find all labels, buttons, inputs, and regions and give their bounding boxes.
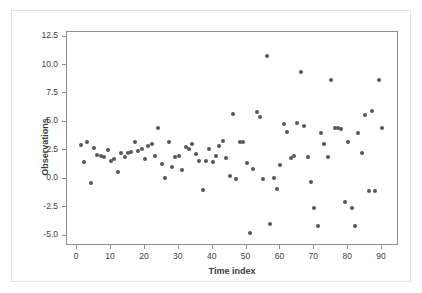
data-point bbox=[353, 224, 357, 228]
data-point bbox=[156, 126, 160, 130]
data-point bbox=[319, 131, 323, 135]
y-axis-tick-label: -2.5 bbox=[12, 202, 58, 211]
data-point bbox=[245, 161, 249, 165]
data-point bbox=[363, 113, 367, 117]
data-point bbox=[312, 206, 316, 210]
data-point bbox=[292, 154, 296, 158]
x-axis-tick-mark bbox=[76, 245, 77, 249]
data-point bbox=[217, 144, 221, 148]
data-point bbox=[106, 148, 110, 152]
data-point bbox=[140, 147, 144, 151]
y-axis-tick-label: -5.0 bbox=[12, 230, 58, 239]
data-point bbox=[228, 174, 232, 178]
data-point bbox=[255, 110, 259, 114]
x-axis-tick-label: 20 bbox=[129, 251, 159, 261]
data-point bbox=[231, 112, 235, 116]
data-point bbox=[329, 78, 333, 82]
data-point bbox=[92, 146, 96, 150]
data-point bbox=[322, 142, 326, 146]
x-axis-tick-mark bbox=[313, 245, 314, 249]
data-point bbox=[170, 165, 174, 169]
data-point bbox=[272, 176, 276, 180]
data-point bbox=[163, 176, 167, 180]
data-point bbox=[211, 160, 215, 164]
data-point bbox=[278, 163, 282, 167]
data-point bbox=[373, 189, 377, 193]
data-point bbox=[79, 143, 83, 147]
data-points-layer bbox=[67, 32, 397, 244]
y-axis-tick-label: 0.0 bbox=[12, 173, 58, 182]
data-point bbox=[129, 150, 133, 154]
plot-area bbox=[66, 31, 398, 245]
data-point bbox=[350, 206, 354, 210]
data-point bbox=[150, 142, 154, 146]
data-point bbox=[143, 157, 147, 161]
x-axis-title: Time index bbox=[66, 266, 398, 276]
x-axis-tick-label: 90 bbox=[366, 251, 396, 261]
y-axis-tick-label: 5.0 bbox=[12, 116, 58, 125]
data-point bbox=[112, 157, 116, 161]
data-point bbox=[221, 139, 225, 143]
x-axis-tick-label: 30 bbox=[163, 251, 193, 261]
x-axis-tick-label: 70 bbox=[298, 251, 328, 261]
data-point bbox=[180, 168, 184, 172]
data-point bbox=[258, 115, 262, 119]
data-point bbox=[224, 156, 228, 160]
y-axis-tick-label: 7.5 bbox=[12, 88, 58, 97]
data-point bbox=[85, 140, 89, 144]
x-axis-tick-label: 10 bbox=[95, 251, 125, 261]
data-point bbox=[102, 155, 106, 159]
data-point bbox=[367, 189, 371, 193]
data-point bbox=[190, 142, 194, 146]
data-point bbox=[248, 231, 252, 235]
data-point bbox=[167, 140, 171, 144]
data-point bbox=[82, 160, 86, 164]
data-point bbox=[306, 155, 310, 159]
y-axis-tick-label: 10.0 bbox=[12, 60, 58, 69]
x-axis-tick-label: 80 bbox=[332, 251, 362, 261]
data-point bbox=[302, 124, 306, 128]
data-point bbox=[261, 177, 265, 181]
data-point bbox=[275, 187, 279, 191]
data-point bbox=[360, 151, 364, 155]
data-point bbox=[194, 152, 198, 156]
data-point bbox=[187, 147, 191, 151]
x-axis-tick-mark bbox=[178, 245, 179, 249]
x-axis-tick-label: 0 bbox=[61, 251, 91, 261]
data-point bbox=[251, 167, 255, 171]
x-axis-tick-mark bbox=[144, 245, 145, 249]
x-axis-tick-mark bbox=[347, 245, 348, 249]
data-point bbox=[177, 154, 181, 158]
x-axis-tick-label: 40 bbox=[197, 251, 227, 261]
data-point bbox=[285, 130, 289, 134]
data-point bbox=[282, 122, 286, 126]
data-point bbox=[316, 224, 320, 228]
x-axis-tick-mark bbox=[212, 245, 213, 249]
data-point bbox=[153, 154, 157, 158]
data-point bbox=[299, 70, 303, 74]
y-axis-tick-label: 12.5 bbox=[12, 31, 58, 40]
data-point bbox=[268, 222, 272, 226]
data-point bbox=[241, 140, 245, 144]
y-axis-tick-label: 2.5 bbox=[12, 145, 58, 154]
x-axis-tick-mark bbox=[279, 245, 280, 249]
data-point bbox=[133, 140, 137, 144]
data-point bbox=[201, 188, 205, 192]
x-axis-tick-label: 60 bbox=[264, 251, 294, 261]
data-point bbox=[116, 170, 120, 174]
data-point bbox=[123, 155, 127, 159]
data-point bbox=[265, 54, 269, 58]
data-point bbox=[207, 147, 211, 151]
data-point bbox=[160, 162, 164, 166]
data-point bbox=[309, 180, 313, 184]
data-point bbox=[377, 78, 381, 82]
data-point bbox=[339, 127, 343, 131]
data-point bbox=[356, 131, 360, 135]
x-axis-tick-mark bbox=[246, 245, 247, 249]
data-point bbox=[89, 181, 93, 185]
x-axis-tick-mark bbox=[110, 245, 111, 249]
data-point bbox=[326, 155, 330, 159]
data-point bbox=[346, 140, 350, 144]
x-axis-tick-mark bbox=[381, 245, 382, 249]
data-point bbox=[343, 200, 347, 204]
